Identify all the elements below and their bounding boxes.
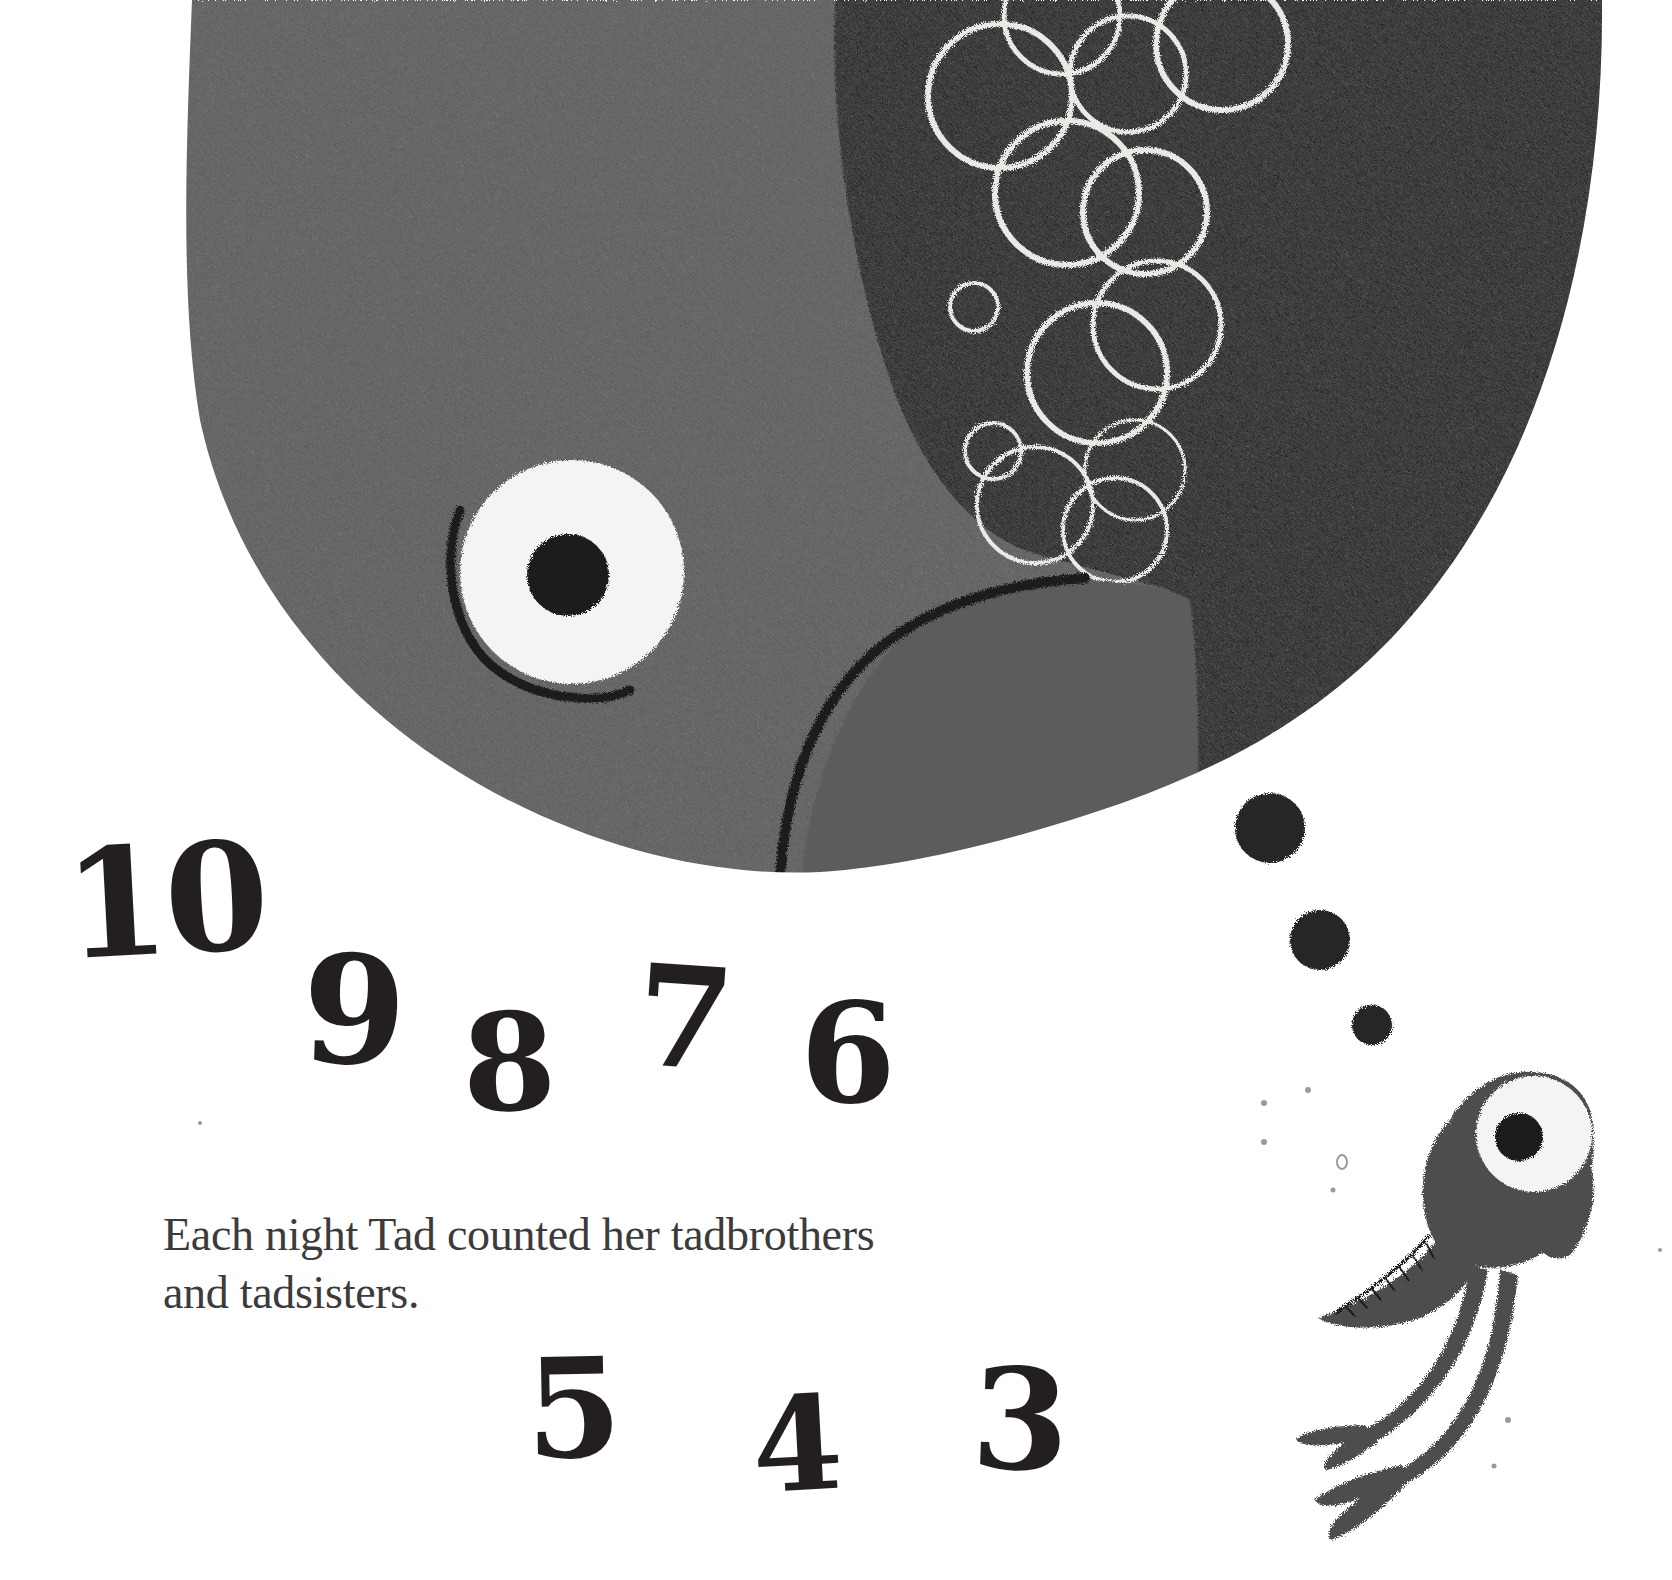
count-number-9: 9 (299, 933, 405, 1086)
count-number-5: 5 (525, 1339, 619, 1479)
story-text-line-2: and tadsisters. (163, 1264, 1063, 1322)
tadpole (1296, 1072, 1594, 1540)
book-page: 10 9 8 7 6 5 4 3 Each night Tad counted … (0, 0, 1672, 1580)
thought-dots (1235, 793, 1392, 1045)
story-text: Each night Tad counted her tadbrothers a… (163, 1206, 1063, 1322)
count-number-8: 8 (460, 993, 555, 1131)
count-number-7: 7 (631, 945, 734, 1091)
count-number-10: 10 (60, 820, 268, 980)
illustration (0, 0, 1672, 1580)
count-number-6: 6 (800, 985, 892, 1123)
count-number-4: 4 (749, 1378, 842, 1512)
story-text-line-1: Each night Tad counted her tadbrothers (163, 1206, 1063, 1264)
count-number-3: 3 (970, 1348, 1068, 1491)
fish-head (150, 0, 1650, 900)
